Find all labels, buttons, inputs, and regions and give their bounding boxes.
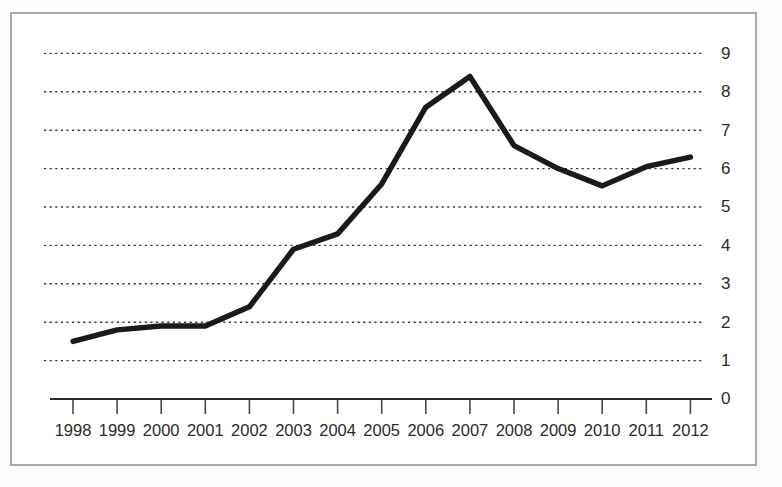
x-tick-label-2008: 2008 bbox=[496, 421, 533, 439]
data-series-group bbox=[73, 76, 690, 341]
x-tick-label-2010: 2010 bbox=[584, 421, 621, 439]
figure-root: 0123456789 19981999200020012002200320042… bbox=[0, 0, 782, 487]
x-tick-label-2000: 2000 bbox=[143, 421, 180, 439]
line-chart-plot: 0123456789 19981999200020012002200320042… bbox=[12, 14, 755, 464]
y-tick-labels-group: 0123456789 bbox=[721, 44, 730, 409]
gridlines-group bbox=[44, 53, 702, 360]
y-tick-label-2: 2 bbox=[721, 313, 730, 332]
x-tick-label-2005: 2005 bbox=[363, 421, 400, 439]
y-tick-label-8: 8 bbox=[721, 82, 730, 101]
x-tick-labels-group: 1998199920002001200220032004200520062007… bbox=[55, 421, 709, 439]
x-tick-label-2004: 2004 bbox=[319, 421, 356, 439]
x-tick-label-2011: 2011 bbox=[629, 421, 664, 439]
y-tick-label-3: 3 bbox=[721, 274, 730, 293]
y-tick-label-0: 0 bbox=[721, 389, 730, 408]
y-tick-label-1: 1 bbox=[721, 351, 730, 370]
x-tick-label-2009: 2009 bbox=[540, 421, 577, 439]
chart-frame: 0123456789 19981999200020012002200320042… bbox=[10, 12, 757, 466]
x-tick-label-2006: 2006 bbox=[407, 421, 444, 439]
x-tick-label-2001: 2001 bbox=[187, 421, 224, 439]
x-tick-label-2003: 2003 bbox=[275, 421, 312, 439]
data-series-line bbox=[73, 76, 690, 341]
x-tick-label-2007: 2007 bbox=[452, 421, 489, 439]
y-tick-label-4: 4 bbox=[721, 236, 730, 255]
x-tick-label-2012: 2012 bbox=[672, 421, 709, 439]
x-tick-label-1998: 1998 bbox=[55, 421, 92, 439]
y-tick-label-7: 7 bbox=[721, 121, 730, 140]
y-tick-label-9: 9 bbox=[721, 44, 730, 63]
x-tick-label-1999: 1999 bbox=[99, 421, 136, 439]
y-tick-label-6: 6 bbox=[721, 159, 730, 178]
y-tick-label-5: 5 bbox=[721, 197, 730, 216]
x-tick-marks-group bbox=[73, 400, 690, 414]
x-tick-label-2002: 2002 bbox=[231, 421, 268, 439]
